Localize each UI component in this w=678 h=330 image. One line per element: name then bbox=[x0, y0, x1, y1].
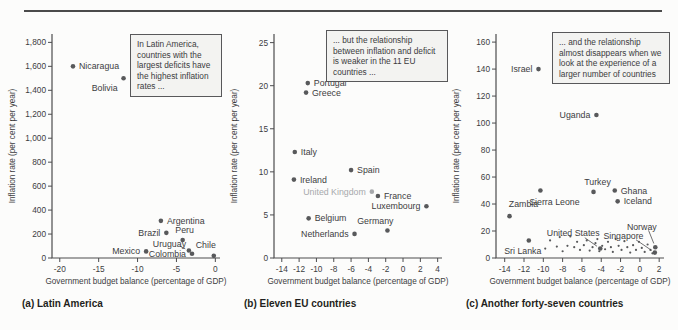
data-point-small bbox=[562, 250, 564, 252]
x-tick-label: -10 bbox=[310, 264, 322, 274]
data-point-small bbox=[629, 252, 631, 254]
data-point-small bbox=[632, 244, 634, 246]
y-tick-label: 1,600 bbox=[25, 61, 46, 71]
data-point-small bbox=[576, 241, 578, 243]
point-label-zambia: Zambia bbox=[509, 199, 538, 209]
data-point-argentina bbox=[159, 219, 164, 224]
x-tick-label: -12 bbox=[518, 264, 530, 274]
x-tick-label: -12 bbox=[293, 264, 305, 274]
data-point-luxembourg bbox=[424, 204, 429, 209]
x-tick-label: -8 bbox=[559, 264, 567, 274]
y-tick-label: 400 bbox=[32, 205, 46, 215]
x-tick-label: -15 bbox=[93, 264, 105, 274]
x-tick-label: -14 bbox=[499, 264, 511, 274]
point-label-bolivia: Bolivia bbox=[92, 83, 118, 93]
y-tick-label: 100 bbox=[476, 118, 490, 128]
data-point-small bbox=[556, 245, 558, 247]
caption-c: (c) Another forty-seven countries bbox=[450, 298, 672, 309]
y-tick-label: 20 bbox=[259, 81, 269, 91]
point-label-sri-lanka: Sri Lanka bbox=[504, 246, 541, 256]
x-tick-label: 2 bbox=[418, 264, 423, 274]
y-axis-label: Inflation rate (per cent per year) bbox=[452, 88, 461, 203]
data-point-turkey bbox=[591, 190, 596, 195]
caption-b: (b) Eleven EU countries bbox=[228, 298, 450, 309]
point-label-belgium: Belgium bbox=[315, 213, 347, 223]
data-point-small bbox=[549, 239, 551, 241]
y-tick-label: 0 bbox=[485, 253, 490, 263]
leader-line bbox=[585, 238, 597, 247]
data-point-chile bbox=[211, 254, 216, 259]
x-axis-label: Government budget balance (percentage of… bbox=[45, 277, 226, 286]
data-point-small bbox=[596, 238, 598, 240]
y-tick-label: 160 bbox=[476, 37, 490, 47]
y-tick-label: 600 bbox=[32, 181, 46, 191]
y-tick-label: 0 bbox=[263, 253, 268, 263]
data-point-greece bbox=[304, 90, 309, 95]
y-tick-label: 1,800 bbox=[25, 37, 46, 47]
top-rule bbox=[24, 10, 662, 12]
y-tick-label: 140 bbox=[476, 64, 490, 74]
data-point-israel bbox=[536, 67, 541, 72]
leader-line bbox=[636, 240, 652, 251]
chart-another-forty-seven-countries: 020406080100120140160-14-12-10-8-6-4-202… bbox=[450, 20, 672, 292]
x-tick-label: 2 bbox=[657, 264, 662, 274]
data-point-france bbox=[376, 194, 381, 199]
data-point-small bbox=[618, 245, 620, 247]
data-point-small bbox=[646, 243, 648, 245]
data-point-small bbox=[579, 249, 581, 251]
data-point-belgium bbox=[306, 216, 311, 221]
y-tick-label: 0 bbox=[41, 253, 46, 263]
point-label-colombia: Colombia bbox=[149, 249, 186, 259]
y-tick-label: 25 bbox=[259, 38, 269, 48]
point-label-italy: Italy bbox=[301, 147, 318, 157]
point-label-uganda: Uganda bbox=[560, 110, 591, 120]
data-point-united-kingdom bbox=[370, 189, 375, 194]
data-point-colombia bbox=[190, 252, 195, 257]
x-tick-label: -2 bbox=[382, 264, 390, 274]
y-tick-label: 5 bbox=[263, 210, 268, 220]
data-point-small bbox=[573, 246, 575, 248]
x-axis-label: Government budget balance (percentage of… bbox=[489, 277, 670, 286]
x-tick-label: -6 bbox=[347, 264, 355, 274]
point-label-ireland: Ireland bbox=[300, 175, 327, 185]
y-tick-label: 120 bbox=[476, 91, 490, 101]
y-tick-label: 800 bbox=[32, 157, 46, 167]
y-axis-label: Inflation rate (per cent per year) bbox=[8, 88, 17, 203]
point-label-peru: Peru bbox=[175, 225, 194, 235]
data-point-portugal bbox=[305, 81, 310, 86]
data-point-sierra-leone bbox=[538, 188, 543, 193]
y-tick-label: 15 bbox=[259, 124, 269, 134]
point-label-uruguay: Uruguay bbox=[153, 239, 187, 249]
data-point-small bbox=[626, 246, 628, 248]
data-point-small bbox=[644, 251, 646, 253]
y-tick-label: 1,000 bbox=[25, 133, 46, 143]
x-tick-label: -10 bbox=[132, 264, 144, 274]
data-point-zambia bbox=[507, 214, 512, 219]
panel-eleven-eu-countries: 0510152025-14-12-10-8-6-4-2024Government… bbox=[228, 20, 450, 309]
x-tick-label: 4 bbox=[435, 264, 440, 274]
x-tick-label: -10 bbox=[537, 264, 549, 274]
annotation-box-a: In Latin America, countries with the lar… bbox=[130, 34, 222, 97]
x-tick-label: -5 bbox=[173, 264, 181, 274]
y-tick-label: 1,400 bbox=[25, 85, 46, 95]
y-tick-label: 10 bbox=[259, 167, 269, 177]
data-point-small bbox=[612, 251, 614, 253]
chart-eleven-eu-countries: 0510152025-14-12-10-8-6-4-2024Government… bbox=[228, 20, 450, 292]
point-label-chile: Chile bbox=[196, 240, 216, 250]
data-point-uganda bbox=[594, 113, 599, 118]
data-point-small bbox=[604, 248, 606, 250]
point-label-netherlands: Netherlands bbox=[301, 229, 349, 239]
x-tick-label: -8 bbox=[330, 264, 338, 274]
data-point-netherlands bbox=[352, 232, 357, 237]
point-label-brazil: Brazil bbox=[138, 228, 160, 238]
figure-inflation-vs-budget-balance: 02004006008001,0001,2001,4001,6001,800-2… bbox=[0, 0, 678, 330]
panel-another-forty-seven-countries: 020406080100120140160-14-12-10-8-6-4-202… bbox=[450, 20, 672, 309]
data-point-small bbox=[594, 242, 596, 244]
data-point-small bbox=[620, 249, 622, 251]
x-tick-label: -14 bbox=[276, 264, 288, 274]
point-label-singapore: Singapore bbox=[603, 231, 643, 241]
point-label-mexico: Mexico bbox=[112, 246, 140, 256]
data-point-sri-lanka bbox=[527, 238, 532, 243]
y-tick-label: 1,200 bbox=[25, 109, 46, 119]
caption-a: (a) Latin America bbox=[6, 298, 228, 309]
